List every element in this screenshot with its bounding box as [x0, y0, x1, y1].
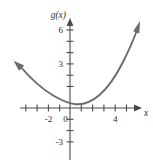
x-tick-label-4: 4: [113, 114, 118, 124]
y-tick-label-3: 3: [59, 59, 64, 69]
y-tick-label-6: 6: [59, 25, 64, 35]
x-tick-label--2: -2: [45, 114, 53, 124]
y-axis-arrowhead-icon: [67, 18, 74, 26]
x-axis-arrowhead-icon: [134, 105, 142, 112]
x-tick-label-0: 0: [63, 114, 68, 124]
y-axis-label: g(x): [51, 10, 66, 21]
coordinate-plane: -2 0 4 6 3 -3 g(x) x: [0, 0, 153, 165]
curve-right-arrowhead-icon: [133, 21, 140, 33]
y-tick-label--3: -3: [56, 137, 64, 147]
function-curve: [20, 32, 137, 105]
graph-figure: -2 0 4 6 3 -3 g(x) x: [0, 0, 153, 165]
x-axis-label: x: [143, 108, 149, 118]
